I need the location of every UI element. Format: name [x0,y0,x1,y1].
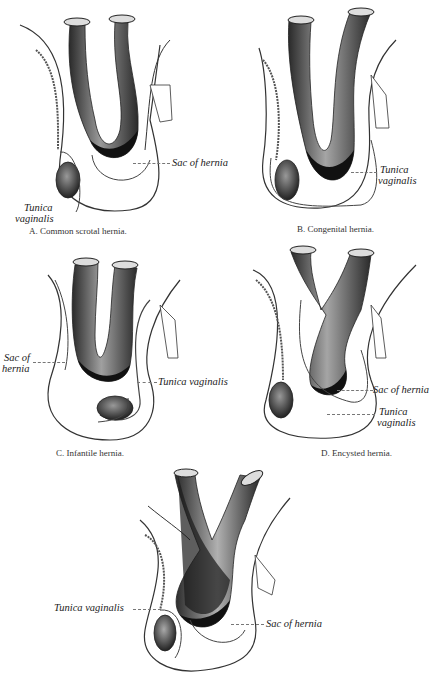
panel-c-sac-leader [33,362,65,363]
panel-a-tunica-label-2: vaginalis [15,213,54,224]
panel-a-sac-label: Sac of hernia [172,157,228,168]
panel-b-congenital-hernia: Tunica vaginalis B. Congenital hernia. [221,0,442,240]
panel-c-tunica-label: Tunica vaginalis [158,376,228,387]
panel-b-tunica-leader [351,172,377,173]
panel-e-sac-label: Sac of hernia [266,618,322,629]
panel-b-caption: B. Congenital hernia. [297,224,374,234]
panel-c-infantile-hernia: Sac of hernia Tunica vaginalis C. Infant… [0,240,221,470]
panel-e-illustration [0,470,442,676]
panel-d-tunica-label-2: vaginalis [377,417,416,428]
panel-d-sac-leader [337,390,373,391]
panel-e-tunica-leader [133,609,161,610]
panel-d-sac-label: Sac of hernia [373,384,429,395]
panel-a-caption: A. Common scrotal hernia. [29,226,127,236]
panel-e-hernia: Tunica vaginalis Sac of hernia [0,470,442,676]
panel-d-caption: D. Encysted hernia. [321,448,392,458]
panel-e-sac-leader [231,624,264,625]
panel-c-tunica-leader [137,382,157,383]
panel-e-tunica-label: Tunica vaginalis [54,602,124,613]
panel-c-sac-label-1: Sac of [4,352,30,363]
panel-d-illustration [221,240,442,470]
panel-d-encysted-hernia: Sac of hernia Tunica vaginalis D. Encyst… [221,240,442,470]
panel-b-illustration [221,0,442,240]
panel-c-caption: C. Infantile hernia. [56,448,124,458]
panel-d-tunica-leader [327,414,375,415]
panel-a-sac-leader [133,163,170,164]
panel-a-common-scrotal-hernia: Sac of hernia Tunica vaginalis A. Common… [0,0,221,240]
panel-b-tunica-label-2: vaginalis [378,175,417,186]
panel-b-tunica-label-1: Tunica [380,164,409,175]
panel-d-tunica-label-1: Tunica [379,406,408,417]
panel-c-illustration [0,240,221,470]
panel-a-tunica-label-1: Tunica [24,202,53,213]
panel-c-sac-label-2: hernia [2,363,29,374]
